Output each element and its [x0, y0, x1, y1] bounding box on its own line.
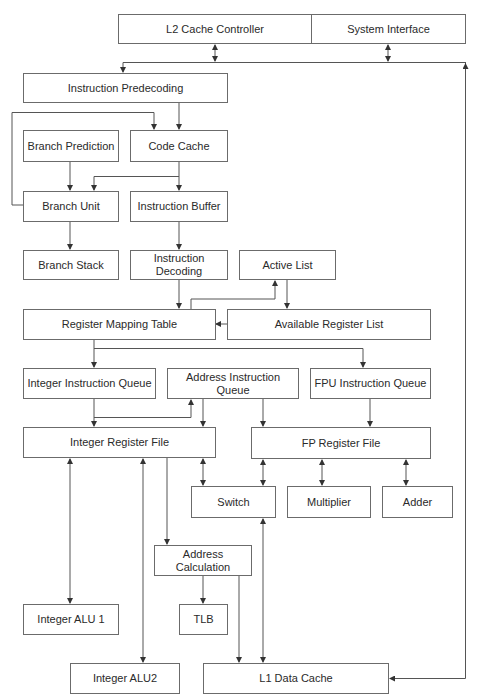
code-cache-block: Code Cache [130, 130, 228, 162]
instruction-buffer-block: Instruction Buffer [130, 191, 228, 222]
active-list-block: Active List [239, 250, 336, 280]
integer-register-file-block: Integer Register File [23, 427, 216, 458]
l2-cache-controller-block: L2 Cache Controller [118, 14, 312, 44]
fpu-instruction-queue-block: FPU Instruction Queue [310, 368, 431, 399]
instruction-predecoding-block: Instruction Predecoding [23, 73, 228, 103]
system-interface-block: System Interface [311, 14, 466, 44]
instruction-decoding-block: Instruction Decoding [130, 250, 228, 280]
branch-stack-block: Branch Stack [23, 250, 119, 280]
branch-unit-block: Branch Unit [23, 191, 119, 222]
register-mapping-table-block: Register Mapping Table [23, 309, 216, 340]
integer-instruction-queue-block: Integer Instruction Queue [23, 368, 156, 399]
integer-alu-1-block: Integer ALU 1 [23, 604, 119, 635]
branch-prediction-block: Branch Prediction [23, 130, 119, 162]
connection-lines [0, 0, 478, 700]
multiplier-block: Multiplier [287, 486, 371, 518]
switch-block: Switch [191, 486, 276, 518]
integer-alu-2-block: Integer ALU2 [70, 663, 180, 694]
address-instruction-queue-block: Address Instruction Queue [167, 368, 299, 399]
fp-register-file-block: FP Register File [251, 427, 431, 459]
tlb-block: TLB [179, 604, 228, 635]
adder-block: Adder [382, 486, 453, 518]
l1-data-cache-block: L1 Data Cache [203, 663, 389, 694]
available-register-list-block: Available Register List [227, 309, 431, 340]
address-calculation-block: Address Calculation [154, 545, 252, 576]
